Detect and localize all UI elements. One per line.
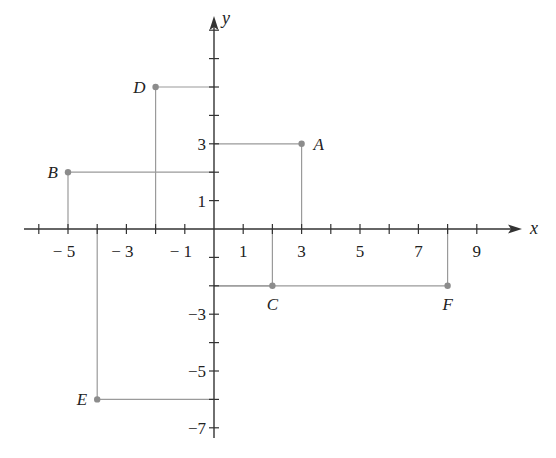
point-e [94, 396, 100, 402]
point-label-c: C [267, 295, 279, 314]
point-label-f: F [441, 295, 453, 314]
x-tick-label: 3 [297, 242, 306, 261]
point-label-d: D [132, 78, 146, 97]
y-tick-label: −5 [188, 362, 206, 381]
point-f [444, 283, 450, 289]
x-tick-label: − 5 [53, 242, 75, 261]
y-tick-label: 1 [198, 192, 207, 211]
point-label-e: E [76, 390, 88, 409]
x-tick-label: 5 [356, 242, 365, 261]
y-axis-label: y [220, 8, 230, 28]
point-c [269, 283, 275, 289]
point-b [65, 169, 71, 175]
point-label-a: A [313, 135, 325, 154]
x-tick-label: − 3 [111, 242, 133, 261]
y-tick-label: −3 [188, 305, 206, 324]
point-d [152, 84, 158, 90]
point-a [298, 141, 304, 147]
x-tick-label: − 1 [170, 242, 192, 261]
x-axis-label: x [529, 218, 538, 238]
plotted-points: ABCDEF [48, 78, 454, 409]
point-label-b: B [48, 163, 59, 182]
x-tick-label: 7 [414, 242, 423, 261]
x-tick-label: 1 [239, 242, 248, 261]
y-tick-label: 3 [198, 135, 207, 154]
coordinate-plane: − 5− 3− 11357931−3−5−7 ABCDEF x y [0, 0, 556, 458]
y-tick-label: −7 [188, 419, 207, 438]
x-tick-label: 9 [473, 242, 482, 261]
